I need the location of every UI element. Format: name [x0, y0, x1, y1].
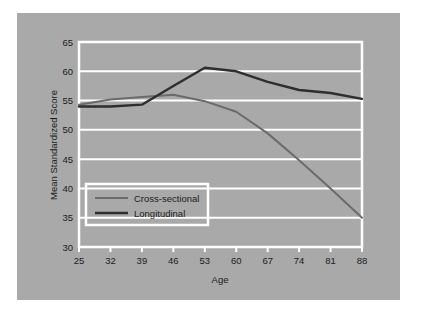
- x-tick-label: 39: [137, 255, 148, 266]
- y-tick-label: 65: [62, 37, 73, 48]
- x-tick-label: 67: [262, 255, 273, 266]
- x-tick-label: 25: [74, 255, 85, 266]
- x-tick-label: 46: [168, 255, 179, 266]
- y-tick-label: 55: [62, 95, 73, 106]
- x-axis-tick-labels: 25323946536067748188: [74, 255, 368, 266]
- legend-label: Longitudinal: [134, 208, 185, 219]
- y-tick-label: 50: [62, 124, 73, 135]
- x-tick-label: 81: [325, 255, 336, 266]
- plot-area-background: [79, 42, 362, 247]
- y-axis-title: Mean Standardized Score: [48, 90, 59, 200]
- y-tick-label: 45: [62, 154, 73, 165]
- y-tick-label: 30: [62, 242, 73, 253]
- y-tick-label: 35: [62, 212, 73, 223]
- x-tick-label: 32: [105, 255, 116, 266]
- x-tick-label: 88: [357, 255, 368, 266]
- x-axis-title: Age: [212, 274, 229, 285]
- x-tick-label: 74: [294, 255, 305, 266]
- line-chart: 3035404550556065 25323946536067748188 Ag…: [0, 0, 421, 321]
- y-tick-label: 40: [62, 183, 73, 194]
- y-axis-tick-labels: 3035404550556065: [62, 37, 73, 253]
- y-tick-label: 60: [62, 66, 73, 77]
- x-tick-label: 60: [231, 255, 242, 266]
- legend-label: Cross-sectional: [134, 193, 199, 204]
- x-tick-label: 53: [199, 255, 210, 266]
- figure-container: 3035404550556065 25323946536067748188 Ag…: [0, 0, 421, 321]
